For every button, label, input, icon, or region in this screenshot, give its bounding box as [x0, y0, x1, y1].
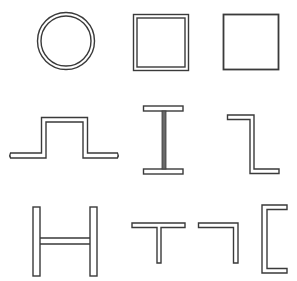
i-beam-section-icon: [144, 106, 184, 174]
channel-section-icon: [262, 205, 287, 273]
structural-sections-diagram: [0, 0, 297, 281]
circular-hollow-section-icon: [38, 13, 95, 70]
hat-section-icon: [10, 118, 119, 159]
square-section-icon: [224, 15, 279, 70]
h-section-icon: [33, 207, 97, 276]
z-section-icon: [228, 115, 280, 174]
square-hollow-section-icon: [134, 15, 189, 71]
angle-section-icon: [199, 223, 239, 263]
t-section-icon: [132, 223, 185, 263]
